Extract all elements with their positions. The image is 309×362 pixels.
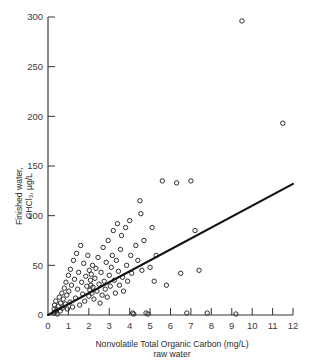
- data-point: [96, 255, 100, 259]
- x-tick-label: 6: [168, 320, 173, 331]
- data-point: [102, 279, 106, 283]
- data-point: [139, 211, 143, 215]
- x-tick-label: 0: [45, 320, 50, 331]
- y-tick-label: 200: [27, 111, 43, 122]
- data-point: [193, 228, 197, 232]
- data-point: [60, 291, 64, 295]
- data-point: [71, 258, 75, 262]
- x-tick-label: 2: [86, 320, 91, 331]
- data-point: [164, 283, 168, 287]
- data-point: [119, 233, 123, 237]
- data-point: [88, 278, 92, 282]
- data-point: [75, 287, 79, 291]
- regression-line: [48, 184, 293, 315]
- axes: [48, 17, 293, 315]
- data-point: [123, 225, 127, 229]
- data-point: [136, 258, 140, 262]
- data-point: [94, 266, 98, 270]
- data-point: [69, 283, 73, 287]
- x-tick-label: 10: [247, 320, 258, 331]
- data-point: [84, 274, 88, 278]
- data-point: [92, 297, 96, 301]
- data-point: [54, 299, 58, 303]
- data-point: [89, 272, 93, 276]
- data-point: [86, 253, 90, 257]
- data-point: [197, 268, 201, 272]
- plot-canvas: 050100150200250300 0123456789101112 Fini…: [0, 0, 309, 362]
- data-point: [281, 121, 285, 125]
- data-point: [67, 289, 71, 293]
- scatter-chart: 050100150200250300 0123456789101112 Fini…: [0, 0, 309, 362]
- data-point: [74, 251, 78, 255]
- data-point: [160, 179, 164, 183]
- y-axis-title: Finished water, CHCl₃, µg/L: [14, 167, 34, 225]
- data-point: [114, 258, 118, 262]
- x-tick-label: 1: [66, 320, 71, 331]
- y-axis-ticks: 050100150200250300: [27, 11, 55, 320]
- x-axis-ticks: 0123456789101112: [45, 308, 298, 331]
- data-point: [174, 181, 178, 185]
- data-point: [104, 260, 108, 264]
- data-point: [82, 261, 86, 265]
- y-tick-label: 0: [38, 309, 43, 320]
- data-point: [128, 253, 132, 257]
- data-point: [134, 243, 138, 247]
- data-point: [70, 305, 74, 309]
- data-point: [109, 265, 113, 269]
- data-point: [138, 199, 142, 203]
- data-point: [127, 218, 131, 222]
- data-point: [83, 299, 87, 303]
- x-tick-label: 9: [229, 320, 234, 331]
- data-point: [105, 295, 109, 299]
- x-axis-title-line1: Nonvolatile Total Organic Carbon (mg/L): [95, 339, 248, 349]
- x-tick-label: 8: [209, 320, 214, 331]
- data-point: [100, 293, 104, 297]
- data-point: [101, 245, 105, 249]
- data-point: [79, 280, 83, 284]
- data-point: [103, 287, 107, 291]
- x-tick-label: 11: [268, 320, 278, 331]
- data-point: [98, 301, 102, 305]
- data-point: [64, 280, 68, 284]
- y-tick-label: 50: [32, 260, 43, 271]
- data-point: [118, 247, 122, 251]
- data-point: [62, 286, 66, 290]
- data-point: [150, 225, 154, 229]
- x-tick-label: 12: [288, 320, 299, 331]
- data-point: [140, 268, 144, 272]
- data-point: [115, 221, 119, 225]
- data-point: [68, 267, 72, 271]
- data-point: [66, 273, 70, 277]
- data-point: [117, 283, 121, 287]
- data-point: [108, 284, 112, 288]
- data-point: [110, 253, 114, 257]
- y-tick-label: 300: [27, 11, 43, 22]
- data-point: [121, 289, 125, 293]
- data-point: [78, 243, 82, 247]
- data-point: [179, 271, 183, 275]
- data-point: [99, 270, 103, 274]
- data-point: [113, 291, 117, 295]
- data-point: [116, 269, 120, 273]
- data-point: [125, 279, 129, 283]
- data-point-group: [52, 19, 285, 316]
- y-tick-label: 150: [27, 160, 43, 171]
- y-axis-title-line2: CHCl₃, µg/L: [24, 173, 34, 219]
- y-tick-label: 250: [27, 61, 43, 72]
- data-point: [152, 279, 156, 283]
- x-tick-label: 3: [107, 320, 112, 331]
- data-point: [107, 273, 111, 277]
- data-point: [93, 276, 97, 280]
- x-axis-title-line2: raw water: [153, 349, 190, 359]
- data-point: [72, 277, 76, 281]
- data-point: [77, 303, 81, 307]
- x-tick-label: 7: [188, 320, 193, 331]
- data-point: [142, 238, 146, 242]
- x-tick-label: 4: [127, 320, 132, 331]
- x-tick-label: 5: [147, 320, 152, 331]
- data-point: [148, 265, 152, 269]
- data-point: [124, 263, 128, 267]
- data-point: [106, 238, 110, 242]
- data-point: [76, 270, 80, 274]
- data-point: [189, 179, 193, 183]
